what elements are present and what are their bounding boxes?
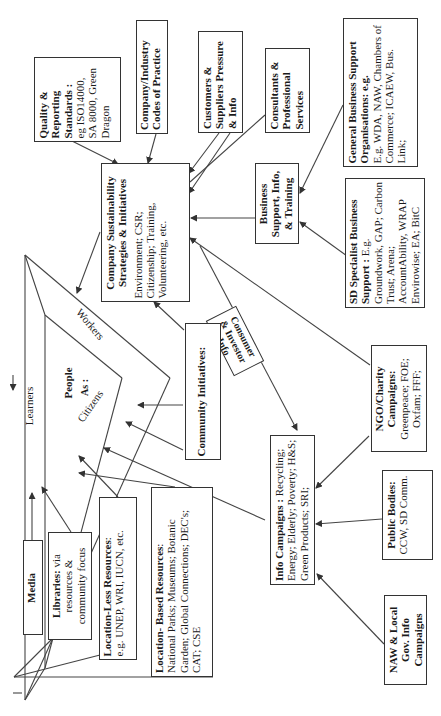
node-title: Customers & Suppliers Pressure & Info [198,31,243,133]
node-info-campaigns: Info Campaigns : Recycling; Energy; Elde… [270,435,315,585]
people-subtitle: As : [79,379,90,396]
node-body: Environment; CSR; Citizenship; Training,… [131,167,168,298]
node-title: Public Bodies: [384,474,396,556]
node-media: Media [23,540,43,635]
node-title: Company Sustainability Strategies & Init… [103,167,128,298]
node-title: Media [23,540,43,635]
node-public-bodies: Public Bodies: CCW, SD Comm. [382,470,433,560]
node-location-based-resources: Location- Based Resources: National Park… [151,487,213,677]
node-body: eg ISO14000, SA 8000, Green Dragon [73,67,110,138]
node-body: Greenpeace; FOE; Oxfam; FFF; [398,358,422,440]
role-learners: Learners [23,387,35,425]
node-body: e.g. UNEP, WRI, IUCN, etc. [113,530,125,656]
node-title: Location-Less Resources [101,540,113,656]
node-general-business-support: General Business Support Organisations: … [343,18,418,167]
node-naw-local-gov: NAW & Local Gov. Info Campaigns [384,595,427,685]
people-title: People [62,367,74,398]
node-sd-specialist-support: SD Specialist Business Support : E.g. Gr… [345,178,425,308]
node-title: Quality & Reporting Standards [36,90,73,138]
node-title: NAW & Local Gov. Info Campaigns [384,595,427,685]
node-quality-standards: Quality & Reporting Standards : eg ISO14… [34,57,121,142]
node-company-sustainability: Company Sustainability Strategies & Init… [101,163,190,302]
node-body: National Parks; Museums; Botanic Garden;… [165,510,202,673]
node-title: Libraries: [50,570,62,618]
node-title: NGO/Charity Campaigns: [373,366,397,431]
node-title: Company/Industry Codes of Practice [136,20,168,134]
node-location-less-resources: Location-Less Resources: e.g. UNEP, WRI,… [99,497,137,660]
node-consultants: Consultants & Professional Services [265,48,310,133]
node-title: Location- Based Resources [153,547,165,673]
node-codes-of-practice: Company/Industry Codes of Practice [136,20,168,134]
node-business-support: Business Support, Info, & Training [255,163,299,244]
node-body: E.g. WDA, NAW, Chambers of Commerce; ICA… [370,25,407,163]
node-title: Info Campaigns [272,506,284,582]
node-body: CCW, SD Comm. [396,474,408,556]
node-ngo-campaigns: NGO/Charity Campaigns: Greenpeace; FOE; … [371,345,427,452]
node-libraries: Libraries: via resources & community foc… [48,532,92,640]
node-title: Consultants & Professional Services [265,48,310,133]
node-title: Community Initiatives: [185,323,221,460]
node-title: Business Support, Info, & Training [255,163,299,244]
node-title: General Business Support Organisations: … [345,41,369,163]
node-customers-suppliers: Customers & Suppliers Pressure & Info [198,31,243,133]
node-community-initiatives: Community Initiatives: [185,323,221,460]
